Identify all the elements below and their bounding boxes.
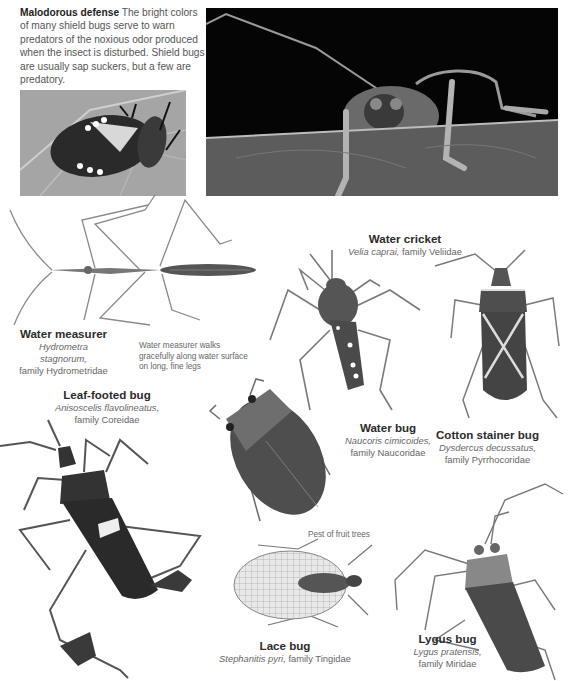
specimen-family: family Pyrrhocoridae	[425, 454, 550, 466]
specimen-family: family Hydrometridae	[16, 365, 111, 377]
specimen-name: Water bug	[338, 421, 438, 435]
specimen-latin: Dysdercus decussatus,	[425, 442, 550, 454]
cotton-stainer-illustration	[435, 250, 568, 430]
water-measurer-note: Water measurer walks gracefully along wa…	[139, 341, 251, 373]
specimen-label-cotton-stainer: Cotton stainer bug Dysdercus decussatus,…	[425, 428, 550, 466]
specimen-latin: Naucoris cimicoides,	[338, 435, 438, 447]
water-bug-illustration	[200, 375, 340, 525]
specimen-family: family Miridae	[405, 658, 490, 670]
lace-bug-illustration	[228, 535, 378, 635]
specimen-name: Leaf-footed bug	[52, 388, 162, 402]
bug-closeup-photo	[206, 8, 558, 196]
specimen-latin: Hydrometra stagnorum,	[16, 341, 111, 365]
specimen-name: Water cricket	[330, 232, 480, 246]
specimen-label-lace-bug: Lace bug Stephanitis pyri, family Tingid…	[210, 639, 360, 665]
shield-bug-photo	[20, 90, 186, 196]
specimen-name: Lygus bug	[405, 632, 490, 646]
specimen-label-lygus-bug: Lygus bug Lygus pratensis, family Mirida…	[405, 632, 490, 670]
specimen-latin: Anisoscelis flavolineatus,	[52, 402, 162, 414]
specimen-label-water-bug: Water bug Naucoris cimicoides, family Na…	[338, 421, 438, 459]
water-measurer-illustration	[0, 200, 290, 320]
specimen-latin: Lygus pratensis,	[405, 646, 490, 658]
specimen-family: family Naucoridae	[338, 447, 438, 459]
specimen-label-water-measurer: Water measurer Hydrometra stagnorum, fam…	[16, 327, 111, 377]
intro-body: The bright colors of many shield bugs se…	[20, 7, 205, 85]
leaf-footed-bug-illustration	[0, 420, 220, 681]
specimen-name: Lace bug	[210, 639, 360, 653]
intro-paragraph: Malodorous defense The bright colors of …	[20, 6, 206, 86]
specimen-latin: Stephanitis pyri, family Tingidae	[210, 653, 360, 665]
specimen-name: Water measurer	[16, 327, 111, 341]
intro-heading: Malodorous defense	[20, 7, 119, 18]
specimen-name: Cotton stainer bug	[425, 428, 550, 442]
